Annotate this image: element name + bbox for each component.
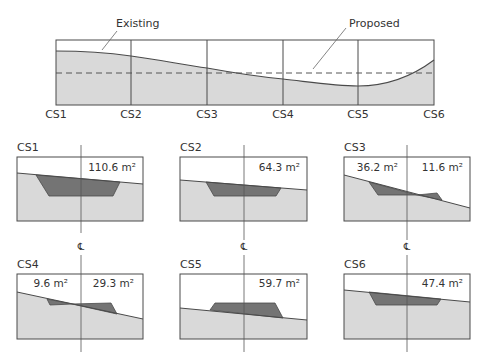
station-label-cs2: CS2 — [120, 108, 142, 121]
area-right: 47.4 m² — [422, 277, 463, 289]
cross-section-cs1: CS1 110.6 m² — [17, 141, 143, 233]
section-title: CS4 — [17, 258, 39, 271]
station-label-cs5: CS5 — [347, 108, 369, 121]
existing-label: Existing — [116, 17, 160, 30]
cross-section-cs3: CS3 36.2 m² 11.6 m² — [344, 141, 470, 240]
proposed-leader-line — [313, 28, 346, 69]
centerline-symbol-cs3: ℄ — [403, 241, 411, 252]
proposed-label: Proposed — [349, 17, 400, 30]
existing-ground-fill — [56, 51, 434, 105]
cross-section-cs2: CS2 64.3 m² — [180, 141, 307, 240]
centerline-symbol-cs1: ℄ — [77, 241, 85, 252]
section-title: CS3 — [344, 141, 366, 154]
earthworks-diagram: Existing Proposed CS1 CS2 CS3 CS4 CS5 CS… — [0, 0, 487, 358]
station-label-cs4: CS4 — [272, 108, 294, 121]
cut-area — [206, 182, 281, 196]
centerline-symbol-cs2: ℄ — [240, 241, 248, 252]
cross-section-cs6: CS6 47.4 m² — [344, 255, 470, 352]
section-title: CS5 — [180, 258, 202, 271]
section-title: CS1 — [17, 141, 39, 154]
station-label-cs6: CS6 — [423, 108, 445, 121]
section-title: CS2 — [180, 141, 202, 154]
long-profile: Existing Proposed CS1 CS2 CS3 CS4 CS5 CS… — [45, 17, 445, 121]
area-right: 29.3 m² — [93, 277, 134, 289]
area-right: 59.7 m² — [259, 277, 300, 289]
area-left: 36.2 m² — [357, 161, 398, 173]
cross-section-cs5: CS5 59.7 m² — [180, 255, 307, 352]
section-title: CS6 — [344, 258, 366, 271]
cross-section-cs4: CS4 9.6 m² 29.3 m² — [17, 255, 143, 352]
ground-fill — [17, 292, 143, 339]
area-right: 64.3 m² — [259, 161, 300, 173]
area-right: 11.6 m² — [422, 161, 463, 173]
area-left: 9.6 m² — [34, 277, 68, 289]
station-label-cs3: CS3 — [196, 108, 218, 121]
cut-area-left — [47, 299, 72, 305]
area-right: 110.6 m² — [88, 161, 136, 173]
station-label-cs1: CS1 — [45, 108, 67, 121]
